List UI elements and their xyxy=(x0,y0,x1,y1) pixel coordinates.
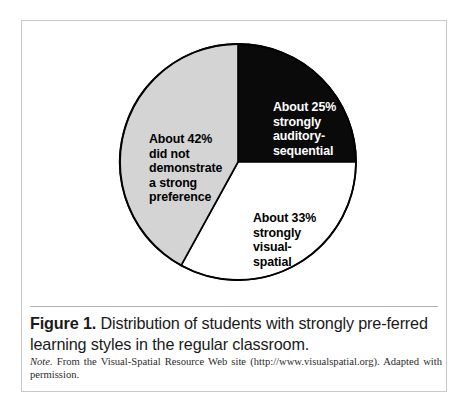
figure-number: Figure 1. xyxy=(30,314,96,332)
note-text: From the Visual-Spatial Resource Web sit… xyxy=(30,356,442,380)
pie-chart: About 25% strongly auditory- sequential … xyxy=(22,21,446,305)
pie-label-no-preference: About 42% did not demonstrate a strong p… xyxy=(149,132,222,205)
caption-divider xyxy=(30,306,438,307)
figure-note: Note. From the Visual-Spatial Resource W… xyxy=(30,355,442,382)
figure-caption: Figure 1. Distribution of students with … xyxy=(30,313,442,354)
figure-frame: About 25% strongly auditory- sequential … xyxy=(21,20,447,392)
pie-label-visual-spatial: About 33% strongly visual- spatial xyxy=(253,211,316,269)
note-label: Note. xyxy=(30,356,53,367)
pie-label-auditory-sequential: About 25% strongly auditory- sequential xyxy=(273,100,336,158)
